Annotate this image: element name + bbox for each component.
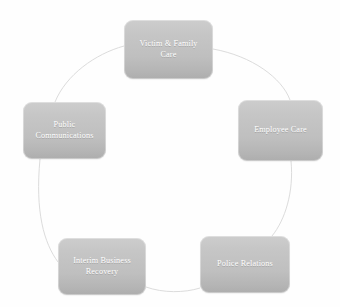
connector-public-to-victim (55, 46, 124, 102)
clipped-footer-caption (0, 300, 340, 307)
cycle-node-label: Victim & Family Care (134, 39, 202, 61)
cycle-node-label: Interim Business Recovery (68, 256, 136, 278)
cycle-diagram: Victim & Family Care Employee Care Polic… (0, 0, 340, 307)
connector-victim-to-employee (213, 49, 290, 100)
cycle-node-employee-care[interactable]: Employee Care (238, 100, 323, 161)
cycle-node-police-relations[interactable]: Police Relations (200, 236, 290, 293)
connector-police-to-interim (146, 287, 200, 292)
cycle-node-label: Police Relations (212, 259, 278, 270)
connector-interim-to-public (39, 159, 58, 262)
cycle-node-label: Public Communications (30, 120, 98, 142)
cycle-node-interim-business-recovery[interactable]: Interim Business Recovery (58, 238, 146, 295)
cycle-node-public-communications[interactable]: Public Communications (23, 102, 106, 159)
cycle-node-victim-family-care[interactable]: Victim & Family Care (124, 20, 213, 79)
cycle-node-label: Employee Care (249, 125, 312, 136)
connector-employee-to-police (272, 161, 292, 236)
